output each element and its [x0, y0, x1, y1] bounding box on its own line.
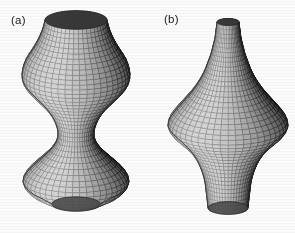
figure-panel-b: (b) [150, 0, 295, 233]
figure-canvas: (a) (b) [0, 0, 295, 233]
spindle-surface-b [150, 0, 295, 233]
figure-panel-a: (a) [0, 0, 150, 233]
unduloid-surface-a [0, 0, 150, 233]
